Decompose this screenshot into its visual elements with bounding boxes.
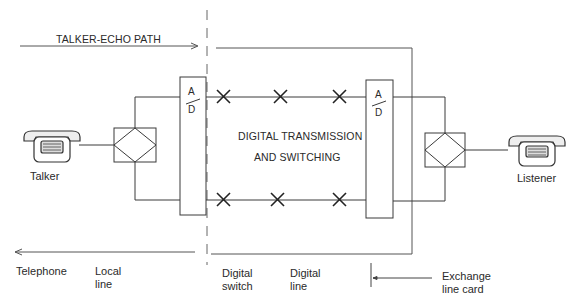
label-telephone: Telephone: [16, 265, 67, 278]
left-ad-bottom: D: [188, 104, 195, 115]
right-ad-top: A: [375, 89, 382, 100]
telephone-icon-listener: [509, 136, 565, 166]
crosspoints: [217, 90, 346, 206]
right-ad-bottom: D: [375, 107, 382, 118]
talker-echo-path-label: TALKER-ECHO PATH: [56, 33, 161, 45]
label-digital-switch: Digital switch: [222, 267, 253, 293]
center-label-line1: DIGITAL TRANSMISSION: [238, 130, 362, 142]
talker-label: Talker: [30, 170, 59, 183]
telephone-icon-talker: [24, 131, 80, 162]
line-card-pointer: [371, 263, 432, 287]
right-hybrid: [425, 133, 465, 167]
left-ad-top: A: [188, 86, 195, 97]
listener-label: Listener: [517, 172, 556, 185]
center-label-line2: AND SWITCHING: [254, 151, 340, 163]
left-ad-converter: [180, 77, 206, 215]
left-hybrid: [114, 128, 156, 162]
label-digital-line: Digital line: [290, 267, 321, 293]
label-local-line: Local line: [95, 265, 121, 291]
label-exchange-line-card: Exchange line card: [442, 270, 491, 296]
right-ad-converter: [366, 80, 393, 218]
